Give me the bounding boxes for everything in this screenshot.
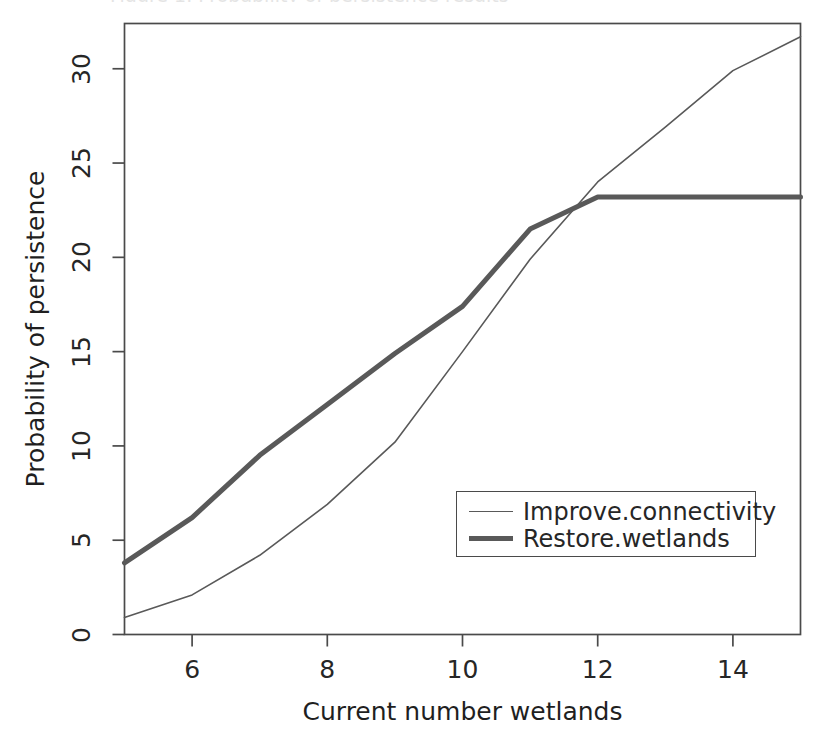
- plot-canvas: [0, 0, 822, 729]
- x-axis-ticks: [192, 635, 733, 647]
- y-axis-ticks: [113, 69, 125, 635]
- y-tick-label: 25: [69, 140, 95, 186]
- y-tick-label: 5: [69, 517, 95, 563]
- legend-item: Improve.connectivity: [469, 498, 745, 525]
- legend-line-swatch-restore-wetlands: [469, 536, 513, 541]
- y-tick-label: 10: [69, 423, 95, 469]
- line-chart-figure: 051015202530 68101214 Probability of per…: [0, 0, 822, 729]
- x-tick-label: 6: [162, 657, 222, 682]
- x-tick-label: 10: [433, 657, 493, 682]
- y-tick-label: 30: [69, 46, 95, 92]
- chart-legend: Improve.connectivity Restore.wetlands: [456, 491, 756, 557]
- legend-label-improve-connectivity: Improve.connectivity: [523, 500, 776, 524]
- legend-label-restore-wetlands: Restore.wetlands: [523, 527, 730, 551]
- x-tick-label: 14: [703, 657, 763, 682]
- x-tick-label: 12: [568, 657, 628, 682]
- y-tick-label: 15: [69, 329, 95, 375]
- legend-item: Restore.wetlands: [469, 525, 745, 552]
- legend-line-swatch-improve-connectivity: [469, 511, 513, 513]
- figure-screenshot: Figure 1. Probability of persistence res…: [0, 0, 822, 729]
- x-tick-label: 8: [297, 657, 357, 682]
- y-tick-label: 20: [69, 234, 95, 280]
- y-axis-title: Probability of persistence: [23, 119, 53, 539]
- x-axis-title: Current number wetlands: [213, 699, 713, 724]
- y-tick-label: 0: [69, 612, 95, 658]
